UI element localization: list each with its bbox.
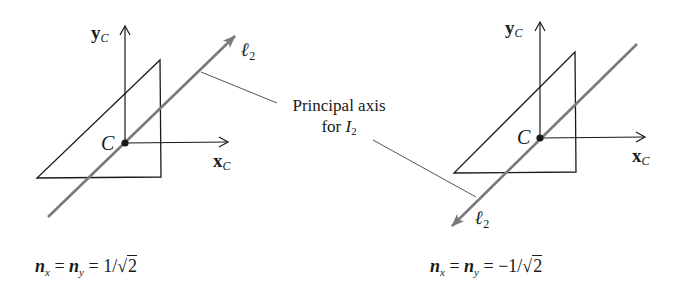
right-formula-radicand: 2 [532,255,542,276]
left-y-axis-label: yC [91,23,109,44]
left-diagram [37,26,235,217]
left-principal-axis-line [48,36,235,217]
right-centroid-label: C [517,127,530,147]
left-formula-radicand: 2 [127,255,137,276]
left-x-axis-arrow [125,142,228,143]
left-ell-sub: 2 [249,49,255,63]
left-x-axis-label-sub: C [223,159,231,173]
right-x-axis-label-sub: C [642,154,650,168]
left-ell-symbol: ℓ [241,39,249,60]
right-diagram [452,22,645,226]
right-y-axis-label: yC [505,18,523,39]
left-centroid-label: C [101,133,114,153]
left-formula-nx: n [35,256,45,276]
right-formula: nx = ny = −1/√2 [430,257,542,278]
right-formula-nx: n [430,256,440,276]
right-x-axis-label: xC [632,146,650,167]
left-triangle [37,60,161,178]
left-principal-line-label: ℓ2 [241,40,255,62]
right-formula-value: −1/√ [498,256,532,276]
left-formula-eq2: = [84,256,103,276]
right-formula-eq1: = [445,256,464,276]
right-x-axis-label-base: x [632,145,642,166]
right-principal-axis-line [452,44,637,226]
callout-line2: for I2 [280,116,398,142]
left-formula: nx = ny = 1/√2 [35,257,137,278]
right-ell-symbol: ℓ [475,207,483,228]
callout-for-text: for [321,117,345,136]
right-centroid-dot [536,134,543,141]
right-triangle [454,52,576,173]
right-x-axis-arrow [540,137,645,138]
left-y-axis-label-base: y [91,22,101,43]
callout-line1: Principal axis [280,95,398,116]
left-formula-ny: n [69,256,79,276]
right-ell-sub: 2 [483,217,489,231]
right-formula-eq2: = [479,256,498,276]
left-x-axis-label-base: x [213,150,223,171]
right-formula-ny: n [464,256,474,276]
right-principal-line-label: ℓ2 [475,208,489,230]
right-y-axis-label-sub: C [515,26,523,40]
left-centroid-dot [121,139,128,146]
left-formula-eq1: = [50,256,69,276]
callout-inertia-sub: 2 [351,125,357,137]
leader-line-left [201,72,277,103]
principal-axis-callout: Principal axis for I2 [280,95,398,142]
left-x-axis-label: xC [213,151,231,172]
left-formula-value: 1/√ [103,256,127,276]
right-y-axis-label-base: y [505,17,515,38]
left-y-axis-label-sub: C [101,31,109,45]
leader-line-right [373,140,476,197]
